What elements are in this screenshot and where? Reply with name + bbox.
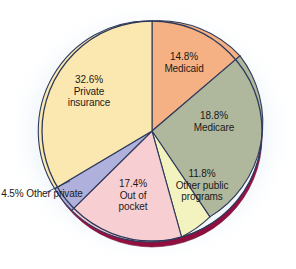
pie-label-medicare: 18.8% Medicare bbox=[175, 110, 253, 133]
pie-label-private-insurance: 32.6% Private insurance bbox=[45, 74, 133, 109]
pie-label-other-private-percent: 4.5% bbox=[1, 188, 23, 199]
pie-label-out-of-pocket-percent: 17.4% bbox=[96, 178, 170, 190]
pie-label-other-public-programs: 11.8% Other public programs bbox=[160, 168, 244, 203]
pie-label-other-public-programs-name: Other public bbox=[160, 180, 244, 192]
pie-label-medicare-name: Medicare bbox=[175, 122, 253, 134]
pie-label-private-insurance-name: Private bbox=[45, 86, 133, 98]
pie-label-medicaid-name: Medicaid bbox=[146, 63, 222, 75]
pie-label-other-public-programs-name2: programs bbox=[160, 191, 244, 203]
pie-label-out-of-pocket-name: Out of bbox=[96, 190, 170, 202]
pie-label-medicare-percent: 18.8% bbox=[175, 110, 253, 122]
pie-label-private-insurance-name2: insurance bbox=[45, 97, 133, 109]
pie-label-other-private: 4.5% Other private bbox=[1, 188, 83, 200]
pie-label-medicaid: 14.8% Medicaid bbox=[146, 51, 222, 74]
pie-label-out-of-pocket: 17.4% Out of pocket bbox=[96, 178, 170, 213]
pie-chart-canvas bbox=[0, 0, 296, 269]
pie-label-medicaid-percent: 14.8% bbox=[146, 51, 222, 63]
pie-label-other-private-name: Other private bbox=[26, 188, 83, 199]
pie-label-private-insurance-percent: 32.6% bbox=[45, 74, 133, 86]
pie-label-other-public-programs-percent: 11.8% bbox=[160, 168, 244, 180]
pie-label-out-of-pocket-name2: pocket bbox=[96, 201, 170, 213]
pie-chart-figure: 14.8% Medicaid 18.8% Medicare 11.8% Othe… bbox=[0, 0, 296, 269]
